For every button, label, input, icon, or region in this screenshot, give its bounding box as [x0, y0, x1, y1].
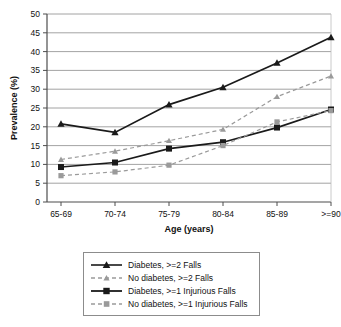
data-point-marker [166, 163, 171, 168]
svg-text:75-79: 75-79 [158, 209, 180, 219]
data-point-marker [220, 143, 225, 148]
svg-text:15: 15 [31, 141, 41, 151]
legend-item: No diabetes, >=2 Falls [84, 271, 259, 284]
legend-label: Diabetes, >=1 Injurious Falls [128, 285, 236, 297]
svg-text:10: 10 [31, 159, 41, 169]
legend-item: Diabetes, >=2 Falls [84, 258, 259, 271]
chart-legend: Diabetes, >=2 Falls No diabetes, >=2 Fal… [83, 252, 260, 316]
legend-key-diabetes-injurious-falls [90, 285, 123, 297]
svg-text:20: 20 [31, 122, 41, 132]
y-axis-ticks: 05101520253035404550 [31, 9, 47, 207]
data-point-marker [166, 146, 172, 152]
svg-text:70-74: 70-74 [104, 209, 126, 219]
svg-text:30: 30 [31, 84, 41, 94]
legend-key-no-diabetes-2-falls [90, 272, 123, 284]
legend-key-no-diabetes-injurious-falls [90, 298, 123, 310]
line-chart-svg: 05101520253035404550 65-6970-7475-7980-8… [0, 0, 341, 240]
data-point-marker [58, 164, 64, 170]
svg-text:>=90: >=90 [321, 209, 341, 219]
svg-text:50: 50 [31, 9, 41, 19]
svg-text:40: 40 [31, 47, 41, 57]
legend-label: No diabetes, >=1 Injurious Falls [128, 298, 248, 310]
data-point-marker [274, 125, 280, 131]
legend-label: Diabetes, >=2 Falls [128, 259, 201, 271]
data-point-marker [328, 108, 333, 113]
svg-text:85-89: 85-89 [266, 209, 288, 219]
svg-text:5: 5 [35, 178, 40, 188]
x-axis-title: Age (years) [164, 224, 213, 234]
data-point-marker [274, 119, 279, 124]
data-point-marker [112, 160, 118, 166]
svg-text:65-69: 65-69 [50, 209, 72, 219]
legend-item: No diabetes, >=1 Injurious Falls [84, 297, 259, 310]
data-point-marker [58, 173, 63, 178]
chart-plot-area: 05101520253035404550 65-6970-7475-7980-8… [0, 0, 341, 240]
svg-text:80-84: 80-84 [212, 209, 234, 219]
legend-label: No diabetes, >=2 Falls [128, 272, 213, 284]
svg-text:35: 35 [31, 65, 41, 75]
svg-text:45: 45 [31, 28, 41, 38]
legend-item: Diabetes, >=1 Injurious Falls [84, 284, 259, 297]
x-axis-ticks: 65-6970-7475-7980-8485-89>=90 [50, 202, 341, 219]
legend-key-diabetes-2-falls [90, 259, 123, 271]
data-point-marker [112, 169, 117, 174]
y-axis-title: Prevalence (%) [9, 76, 19, 140]
svg-text:0: 0 [35, 197, 40, 207]
svg-text:25: 25 [31, 103, 41, 113]
figure: 05101520253035404550 65-6970-7475-7980-8… [0, 0, 341, 327]
